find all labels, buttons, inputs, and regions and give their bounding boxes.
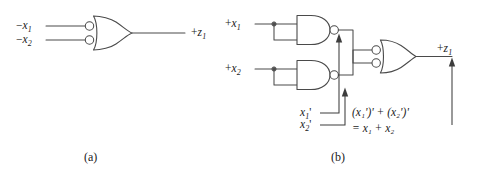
panel-a-circuit: [46, 16, 185, 50]
leader-or-out-arrowhead: [449, 58, 455, 67]
wire-b-nand1-in-fork: [274, 24, 297, 40]
panel-b-circuit: [255, 16, 452, 90]
panel-b-input-label-2: +x2: [225, 63, 241, 75]
figure-root: −x1 −x2 +z1 (a) +x1 +x2 +z1 x1' x2' (x₁'…: [0, 0, 478, 180]
panel-a-input-label-1: −x1: [16, 20, 32, 32]
wire-b-nand2-in-fork: [274, 69, 297, 85]
panel-a-output-label: +z1: [191, 27, 206, 39]
leader-nand2-out-arrowhead: [342, 88, 348, 97]
bubble-a-input-1: [85, 22, 93, 30]
panel-a-input-label-2: −x2: [16, 34, 32, 46]
panel-b-caption: (b): [331, 151, 345, 163]
or-gate-b-body: [380, 40, 416, 73]
annotation-or-output: (x₁')' + (x₂')' = x₁ + x₂: [352, 105, 409, 136]
panel-a-caption: (a): [84, 151, 97, 163]
wire-b-nand1-out: [338, 30, 372, 63]
or-gate-a-body: [94, 16, 133, 50]
annotation-nand2-output: x2': [300, 119, 312, 131]
nand-gate-b1-body: [297, 16, 330, 45]
leader-nand2-out: [320, 96, 345, 125]
annotation-or-output-line2: = x₁ + x₂: [352, 121, 409, 137]
bubble-b-or-input-2: [372, 59, 380, 67]
panel-b-input-label-1: +x1: [225, 18, 241, 30]
bubble-b-nand1-output: [330, 26, 338, 34]
annotation-or-output-line1: (x₁')' + (x₂')': [352, 105, 409, 121]
panel-b-output-label: +z1: [437, 43, 452, 55]
leader-nand1-out-arrowhead: [336, 34, 342, 43]
bubble-b-nand2-output: [330, 71, 338, 79]
bubble-b-or-input-1: [372, 46, 380, 54]
nand-gate-b2-body: [297, 61, 330, 90]
annotation-nand1-output: x1': [300, 107, 312, 119]
bubble-a-input-2: [85, 36, 93, 44]
